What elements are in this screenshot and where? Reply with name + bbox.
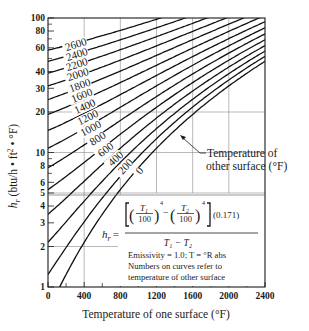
svg-text:temperature of other surface: temperature of other surface [128, 272, 225, 282]
other-surface-annotation: Temperature of other surface (°F) [180, 135, 287, 173]
y-tick-label: 10 [36, 148, 46, 158]
x-tick-label: 800 [113, 291, 128, 301]
y-tick-label: 2 [40, 242, 45, 252]
annotation-leader-line [183, 138, 206, 153]
formula-notes: Emissivity = 1.0; T = °R abs Numbers on … [128, 250, 227, 282]
svg-text:Emissivity = 1.0; T = °R abs: Emissivity = 1.0; T = °R abs [128, 250, 227, 260]
y-tick-label: 6 [40, 178, 45, 188]
y-axis-title: hr (btu/h • ft2 • °F) [6, 124, 22, 209]
svg-text:T₁ − T₂: T₁ − T₂ [164, 238, 193, 248]
svg-text:hr=: hr= [102, 228, 119, 243]
annotation-arrowhead-icon [180, 135, 186, 140]
x-tick-label: 2400 [256, 291, 275, 301]
svg-text:−: − [163, 207, 169, 218]
svg-text:100: 100 [179, 214, 192, 224]
x-axis-title: Temperature of one surface (°F) [82, 308, 230, 321]
svg-text:4: 4 [160, 200, 163, 206]
x-tick-label: 1200 [147, 291, 166, 301]
svg-text:): ) [195, 207, 200, 225]
y-tick-label: 30 [36, 84, 46, 94]
x-tick-label: 400 [77, 291, 92, 301]
y-tick-label: 4 [40, 201, 45, 211]
svg-text:100: 100 [138, 214, 151, 224]
svg-text:(0.171): (0.171) [213, 210, 239, 220]
y-tick-label: 80 [36, 26, 46, 36]
y-tick-label: 40 [36, 67, 46, 77]
svg-text:Numbers on curves refer to: Numbers on curves refer to [128, 261, 222, 271]
svg-text:Temperature of: Temperature of [207, 147, 278, 160]
svg-text:(: ( [170, 207, 175, 225]
svg-text:other surface (°F): other surface (°F) [206, 160, 287, 173]
curve-labels: 0200400600800100012001400160018002000220… [62, 35, 146, 179]
y-tick-label: 5 [40, 188, 45, 198]
svg-text:): ) [154, 207, 159, 225]
y-axis-ticks: 1234568102030406080100 [31, 13, 54, 292]
y-tick-label: 60 [36, 43, 46, 53]
svg-text:(: ( [129, 207, 134, 225]
y-tick-label: 100 [31, 13, 46, 23]
x-tick-label: 0 [46, 291, 51, 301]
y-tick-label: 20 [36, 107, 46, 117]
x-tick-label: 2000 [219, 291, 238, 301]
radiation-coefficient-chart: 0200400600800100012001400160018002000220… [0, 0, 309, 331]
svg-text:4: 4 [202, 200, 205, 206]
y-tick-label: 8 [40, 161, 45, 171]
x-tick-label: 1600 [183, 291, 202, 301]
y-tick-label: 3 [40, 218, 45, 228]
y-tick-label: 1 [40, 282, 45, 292]
